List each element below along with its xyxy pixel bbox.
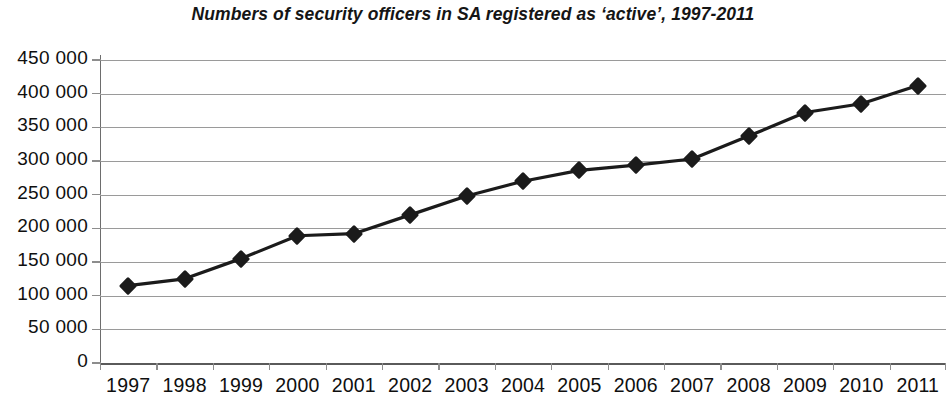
data-series-line — [0, 0, 946, 402]
chart-figure: Numbers of security officers in SA regis… — [0, 0, 946, 402]
